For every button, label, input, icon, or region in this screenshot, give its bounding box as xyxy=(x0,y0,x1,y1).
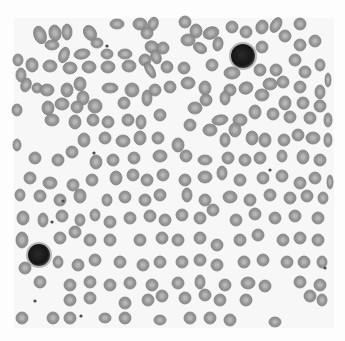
red-blood-cell xyxy=(69,226,81,238)
platelet xyxy=(268,168,271,171)
red-blood-cell xyxy=(184,312,196,324)
red-blood-cell xyxy=(263,78,277,90)
red-blood-cell xyxy=(179,16,191,28)
red-blood-cell xyxy=(327,175,333,189)
red-blood-cell xyxy=(229,123,241,137)
red-blood-cell xyxy=(306,132,320,144)
red-blood-cell xyxy=(207,204,219,216)
red-blood-cell xyxy=(269,212,281,224)
red-blood-cell xyxy=(63,62,77,74)
red-blood-cell xyxy=(220,91,230,105)
red-blood-cell xyxy=(317,294,327,306)
red-blood-cell xyxy=(249,208,261,220)
platelet xyxy=(50,220,53,223)
red-blood-cell xyxy=(203,124,217,136)
red-blood-cell xyxy=(146,279,158,291)
red-blood-cell xyxy=(252,229,264,241)
red-blood-cell xyxy=(279,30,291,42)
red-blood-cell xyxy=(314,100,326,112)
red-blood-cell xyxy=(181,77,195,89)
red-blood-cell xyxy=(270,64,282,76)
red-blood-cell xyxy=(309,172,321,184)
red-blood-cell xyxy=(90,209,100,221)
red-blood-cell xyxy=(239,154,251,166)
platelet xyxy=(79,314,82,317)
blood-smear-image xyxy=(0,0,345,341)
red-blood-cell xyxy=(195,275,205,289)
red-blood-cell xyxy=(200,94,212,106)
red-blood-cell xyxy=(122,60,136,72)
red-blood-cell xyxy=(153,150,167,162)
red-blood-cell xyxy=(297,97,309,109)
red-blood-cell xyxy=(54,232,66,244)
red-blood-cell xyxy=(304,290,316,302)
red-blood-cell xyxy=(161,61,173,73)
red-blood-cell xyxy=(104,279,116,291)
red-blood-cell xyxy=(17,211,29,225)
red-blood-cell xyxy=(199,194,211,206)
red-blood-cell xyxy=(164,81,176,93)
red-blood-cell xyxy=(172,277,184,289)
red-blood-cell xyxy=(15,189,25,201)
red-blood-cell xyxy=(318,192,328,204)
red-blood-cell xyxy=(128,152,140,164)
red-blood-cell xyxy=(84,276,96,288)
red-blood-cell xyxy=(102,194,112,206)
red-blood-cell xyxy=(220,133,230,147)
red-blood-cell xyxy=(211,259,223,271)
red-blood-cell xyxy=(91,38,103,48)
red-blood-cell xyxy=(104,216,116,228)
lymphocyte-lower-left xyxy=(26,242,52,268)
red-blood-cell xyxy=(154,109,166,121)
red-blood-cell xyxy=(159,214,171,226)
red-blood-cell xyxy=(114,256,126,268)
red-blood-cell xyxy=(127,169,139,181)
red-blood-cell xyxy=(69,115,81,129)
red-blood-cell xyxy=(154,189,166,201)
red-blood-cell xyxy=(217,166,227,180)
red-blood-cell xyxy=(246,131,258,145)
red-blood-cell xyxy=(294,18,306,30)
red-blood-cell xyxy=(119,297,131,309)
red-blood-cell xyxy=(38,213,48,227)
red-blood-cell xyxy=(294,81,306,93)
red-blood-cell xyxy=(181,34,195,46)
red-blood-cell xyxy=(141,27,153,39)
red-blood-cell xyxy=(234,174,246,186)
red-blood-cell xyxy=(56,210,68,222)
red-blood-cell xyxy=(99,132,111,144)
red-blood-cell xyxy=(230,214,242,226)
red-blood-cell xyxy=(194,254,206,266)
red-blood-cell xyxy=(309,35,321,47)
red-blood-cell xyxy=(45,114,59,126)
red-blood-cell xyxy=(55,98,69,110)
red-blood-cell xyxy=(40,84,54,96)
red-blood-cell xyxy=(244,194,256,206)
red-blood-cell xyxy=(241,277,255,289)
red-blood-cell xyxy=(312,234,324,246)
red-blood-cell xyxy=(67,179,79,191)
red-blood-cell xyxy=(87,114,99,126)
red-blood-cell xyxy=(90,155,102,169)
red-blood-cell xyxy=(74,189,86,203)
red-blood-cell xyxy=(124,277,136,289)
red-blood-cell xyxy=(99,313,111,323)
lymphocyte-upper-right xyxy=(229,42,257,70)
platelet xyxy=(61,199,64,202)
red-blood-cell xyxy=(88,99,102,113)
red-blood-cell xyxy=(134,131,146,145)
red-blood-cell xyxy=(289,210,301,222)
red-blood-cell xyxy=(47,312,59,324)
red-blood-cell xyxy=(64,312,76,324)
red-blood-cell xyxy=(29,152,41,164)
red-blood-cell xyxy=(284,111,296,123)
red-blood-cell xyxy=(223,191,237,203)
red-blood-cell xyxy=(257,172,269,184)
red-blood-cell xyxy=(226,21,238,33)
red-blood-cell xyxy=(277,76,289,88)
red-blood-cell xyxy=(276,170,288,182)
red-blood-cell xyxy=(52,154,64,166)
red-blood-cell xyxy=(172,138,184,152)
red-blood-cell xyxy=(74,77,86,91)
red-blood-cell xyxy=(315,59,325,71)
